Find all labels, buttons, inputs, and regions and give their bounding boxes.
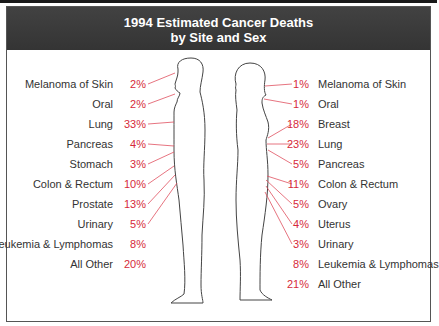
male-label: Urinary (78, 217, 113, 231)
female-pct: 4% (287, 217, 309, 231)
male-silhouette-icon (171, 58, 205, 303)
female-pct: 3% (287, 237, 309, 251)
female-label: Oral (318, 97, 339, 111)
male-pct: 33% (124, 117, 146, 131)
male-row-prostate: Prostate (0, 197, 113, 211)
male-row-other: All Other (0, 257, 113, 271)
female-label: Lung (318, 137, 342, 151)
female-label: Melanoma of Skin (318, 77, 406, 91)
male-label: Prostate (72, 197, 113, 211)
male-label: Lung (89, 117, 113, 131)
male-label: Melanoma of Skin (25, 77, 113, 91)
male-row-melanoma: Melanoma of Skin (0, 77, 113, 91)
male-pct: 2% (124, 97, 146, 111)
male-row-leukemia: Leukemia & Lymphomas (0, 237, 113, 251)
male-pct: 20% (124, 257, 146, 271)
female-label: Colon & Rectum (318, 177, 398, 191)
female-label: Pancreas (318, 157, 364, 171)
female-label: Leukemia & Lymphomas (318, 257, 439, 271)
female-label: Ovary (318, 197, 347, 211)
male-row-oral: Oral (0, 97, 113, 111)
male-label: All Other (70, 257, 113, 271)
female-pct: 8% (287, 257, 309, 271)
female-pct: 21% (287, 277, 309, 291)
male-pct: 8% (124, 237, 146, 251)
female-pct: 5% (287, 157, 309, 171)
male-pct: 2% (124, 77, 146, 91)
female-pct: 5% (287, 197, 309, 211)
male-pct: 4% (124, 137, 146, 151)
male-row-colon: Colon & Rectum (0, 177, 113, 191)
female-pct: 23% (287, 137, 309, 151)
male-label: Leukemia & Lymphomas (0, 237, 113, 251)
female-label: All Other (318, 277, 361, 291)
female-pct: 1% (287, 97, 309, 111)
female-pct: 1% (287, 77, 309, 91)
male-label: Stomach (70, 157, 113, 171)
female-silhouette-icon (235, 63, 272, 300)
female-label: Urinary (318, 237, 353, 251)
female-label: Breast (318, 117, 350, 131)
male-label: Pancreas (67, 137, 113, 151)
male-leader-lines (148, 73, 177, 224)
female-pct: 11% (287, 177, 309, 191)
female-label: Uterus (318, 217, 350, 231)
male-pct: 13% (124, 197, 146, 211)
male-row-pancreas: Pancreas (0, 137, 113, 151)
male-row-stomach: Stomach (0, 157, 113, 171)
female-pct: 18% (287, 117, 309, 131)
male-label: Colon & Rectum (33, 177, 113, 191)
male-pct: 3% (124, 157, 146, 171)
male-row-urinary: Urinary (0, 217, 113, 231)
male-row-lung: Lung (0, 117, 113, 131)
male-pct: 5% (124, 217, 146, 231)
male-label: Oral (92, 97, 113, 111)
male-pct: 10% (124, 177, 146, 191)
